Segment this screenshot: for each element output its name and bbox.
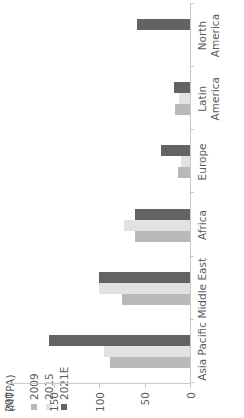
value-axis-tick-label: 150 <box>48 392 60 412</box>
category-axis-tick <box>190 319 194 320</box>
category-axis-tick <box>190 382 194 383</box>
category-axis-tick <box>190 66 194 67</box>
bar[interactable] <box>178 167 190 178</box>
bar-group <box>8 130 190 193</box>
bar[interactable] <box>179 93 190 104</box>
bar[interactable] <box>175 104 190 115</box>
value-axis-tick: 150 <box>54 384 55 388</box>
category-label-line: Middle East <box>196 257 209 320</box>
bar[interactable] <box>104 346 190 357</box>
category-labels: Asia PacificMiddle EastAfricaEuropeLatin… <box>196 4 240 383</box>
value-axis-tick: 50 <box>145 384 146 388</box>
value-axis-tick-label: 50 <box>139 392 151 405</box>
bar[interactable] <box>110 357 190 368</box>
legend-swatch-icon <box>31 404 37 410</box>
bar[interactable] <box>99 283 190 294</box>
value-axis-tick-label: 0 <box>185 392 197 399</box>
bar-group <box>8 194 190 257</box>
category-label-line: Africa <box>196 194 209 257</box>
category-label-line: North <box>196 4 209 67</box>
bar[interactable] <box>135 231 190 242</box>
category-label: LatinAmerica <box>196 67 221 130</box>
bar[interactable] <box>122 294 190 305</box>
value-axis-tick: 200 <box>8 384 9 388</box>
bar[interactable] <box>174 82 190 93</box>
legend-swatch-icon <box>61 404 67 410</box>
category-label-line: America <box>209 67 222 130</box>
bar-group <box>8 257 190 320</box>
category-axis-tick <box>190 256 194 257</box>
bar[interactable] <box>99 272 190 283</box>
bar-group <box>8 4 190 67</box>
value-axis-tick-label: 100 <box>94 392 106 412</box>
category-label-line: Latin <box>196 67 209 130</box>
chart-stage: (MTPA) 200920152021E 050100150200 Asia P… <box>0 0 244 418</box>
category-label-line: Asia Pacific <box>196 320 209 383</box>
category-label-line: Europe <box>196 130 209 193</box>
category-label: Africa <box>196 194 209 257</box>
category-axis-line <box>190 4 191 384</box>
value-axis-tick: 100 <box>99 384 100 388</box>
bar[interactable] <box>124 220 190 231</box>
category-axis-tick <box>190 193 194 194</box>
value-axis-tick-label: 200 <box>3 392 15 412</box>
bar-groups <box>8 4 190 383</box>
bar-chart: (MTPA) 200920152021E 050100150200 Asia P… <box>0 0 244 418</box>
bar-group <box>8 67 190 130</box>
category-axis-tick <box>190 3 194 4</box>
category-label: Asia Pacific <box>196 320 209 383</box>
category-label-line: America <box>209 4 222 67</box>
category-axis-tick <box>190 129 194 130</box>
bar[interactable] <box>49 335 190 346</box>
bar[interactable] <box>181 156 190 167</box>
value-axis-tick: 0 <box>190 384 191 388</box>
bar[interactable] <box>137 19 190 30</box>
bar[interactable] <box>135 209 190 220</box>
category-label: Europe <box>196 130 209 193</box>
category-label: Middle East <box>196 257 209 320</box>
bar-group <box>8 320 190 383</box>
category-label: NorthAmerica <box>196 4 221 67</box>
bar[interactable] <box>161 145 190 156</box>
